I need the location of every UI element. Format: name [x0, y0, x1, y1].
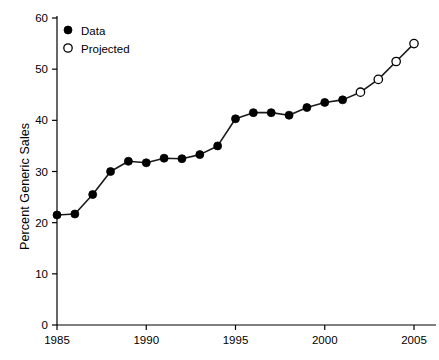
data-point-marker[interactable] [196, 151, 204, 159]
projected-point-marker[interactable] [392, 57, 400, 65]
data-point-marker[interactable] [142, 159, 150, 167]
projected-point-marker[interactable] [356, 88, 364, 96]
legend-label-projected: Projected [81, 43, 130, 55]
x-tick-label: 2000 [312, 334, 338, 346]
x-tick-label: 1995 [223, 334, 249, 346]
data-point-marker[interactable] [178, 155, 186, 163]
y-tick-label: 60 [35, 12, 48, 24]
data-point-marker[interactable] [285, 111, 293, 119]
y-tick-label: 0 [42, 319, 48, 331]
data-point-marker[interactable] [232, 115, 240, 123]
data-point-marker[interactable] [339, 96, 347, 104]
data-point-marker[interactable] [53, 211, 61, 219]
data-line [57, 44, 414, 215]
y-tick-label: 20 [35, 217, 48, 229]
plot-area: 010203040506019851990199520002005DataPro… [0, 0, 439, 360]
projected-point-marker[interactable] [410, 39, 418, 47]
data-point-marker[interactable] [214, 142, 222, 150]
data-point-marker[interactable] [160, 154, 168, 162]
y-tick-label: 40 [35, 114, 48, 126]
data-point-marker[interactable] [321, 98, 329, 106]
data-point-marker[interactable] [124, 157, 132, 165]
data-point-marker[interactable] [249, 109, 257, 117]
data-point-marker[interactable] [267, 109, 275, 117]
y-tick-label: 30 [35, 166, 48, 178]
data-point-marker[interactable] [107, 168, 115, 176]
data-point-marker[interactable] [89, 191, 97, 199]
chart-container: Percent Generic Sales 010203040506019851… [0, 0, 439, 360]
y-tick-label: 10 [35, 268, 48, 280]
x-tick-label: 2005 [401, 334, 427, 346]
projected-point-marker[interactable] [374, 75, 382, 83]
y-tick-label: 50 [35, 63, 48, 75]
x-tick-label: 1985 [44, 334, 70, 346]
x-tick-label: 1990 [133, 334, 159, 346]
legend-marker-projected [64, 44, 72, 52]
data-point-marker[interactable] [303, 104, 311, 112]
data-point-marker[interactable] [71, 210, 79, 218]
legend-marker-data [64, 26, 72, 34]
legend-label-data: Data [81, 25, 106, 37]
